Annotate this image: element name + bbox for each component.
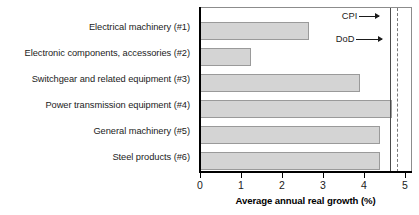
x-tick-mark-1 [241, 173, 242, 178]
bar-steel-products [200, 152, 380, 170]
category-label-1: Electrical machinery (#1) [0, 22, 190, 33]
category-label-6: Steel products (#6) [0, 152, 190, 163]
bar-chart-figure: Electrical machinery (#1) Electronic com… [0, 0, 419, 215]
x-tick-mark-4 [364, 173, 365, 178]
y-axis-spine [199, 7, 201, 173]
reference-line-dod [397, 8, 398, 172]
x-tick-label-5: 5 [393, 179, 417, 192]
x-tick-mark-3 [323, 173, 324, 178]
bar-electrical-machinery [200, 22, 309, 40]
reference-label-dod: DoD [336, 33, 355, 45]
x-tick-label-2: 2 [270, 179, 294, 192]
category-axis-labels: Electrical machinery (#1) Electronic com… [0, 8, 194, 166]
reference-line-cpi [390, 8, 391, 172]
bars-layer [200, 7, 412, 172]
x-axis-spine [199, 171, 412, 173]
x-tick-mark-2 [282, 173, 283, 178]
reference-annotation-dod: DoD [336, 33, 383, 45]
arrow-right-icon [356, 39, 382, 40]
x-axis-title: Average annual real growth (%) [199, 195, 412, 206]
x-tick-label-3: 3 [311, 179, 335, 192]
category-label-5: General machinery (#5) [0, 126, 190, 137]
category-label-2: Electronic components, accessories (#2) [0, 48, 190, 59]
category-label-3: Switchgear and related equipment (#3) [0, 74, 190, 85]
bar-power-transmission [200, 100, 392, 118]
x-tick-mark-5 [405, 173, 406, 178]
x-tick-label-1: 1 [229, 179, 253, 192]
bar-switchgear [200, 74, 360, 92]
reference-annotation-cpi: CPI [342, 10, 380, 22]
arrow-right-icon [359, 16, 379, 17]
reference-label-cpi: CPI [342, 10, 358, 22]
x-tick-label-4: 4 [352, 179, 376, 192]
x-tick-label-0: 0 [188, 179, 212, 192]
bar-general-machinery [200, 126, 380, 144]
bar-electronic-components [200, 48, 251, 66]
x-tick-mark-0 [200, 173, 201, 178]
category-label-4: Power transmission equipment (#4) [0, 100, 190, 111]
